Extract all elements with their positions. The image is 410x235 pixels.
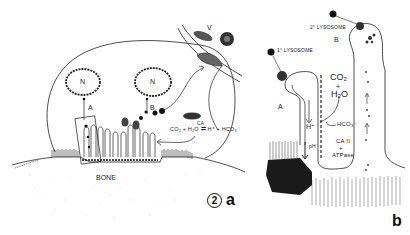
sealing-hatch-b [270,141,297,160]
sealing-zone-left [52,149,78,157]
digested-debris [366,34,376,44]
secondary-lysosome-fusion [356,22,364,30]
transcytosis-vesicles [365,71,370,171]
figure-number: 2 [212,195,218,206]
nucleus-right-label: N [150,78,155,85]
vessel-wall-inner [182,25,242,76]
arrow-to-hco3 [320,96,339,122]
pathway-a-label: A [88,104,93,111]
h2o-label: H₂O [331,90,348,99]
panel-a-drawing [0,0,410,235]
transcytosis-arrow [164,68,203,110]
vessel-label: V [207,24,212,31]
secondary-lysosome-dot [330,11,337,18]
figure-canvas: N N A B V BONE CA CO₂ + H₂O ⇌ H⁺ + HCO₃⁻… [0,0,410,235]
hplus-label: H⁺ [306,123,315,130]
panel-b-letter: b [392,213,402,229]
co2-label: CO₂ [330,73,347,82]
carbonic-equation: CO₂ + H₂O ⇌ H⁺ + HCO₃⁻ [170,127,240,133]
ca2-label: CA II [336,138,350,144]
endothelial-cell [197,53,222,66]
primary-lysosome-label: 1° LYSOSOME [277,48,313,53]
panel-b-pathway-b: B [334,36,339,43]
nucleus-left-label: N [80,78,85,85]
panel-b-pathway-a: A [278,103,283,110]
upward-arrows [365,93,369,134]
secondary-lysosome-label: 2° LYSOSOME [310,25,346,30]
secretory-vesicle [159,108,165,114]
pathway-b-label: B [150,104,155,111]
primary-lysosome-fusion [277,71,287,81]
plus-label-2: + [339,145,343,151]
ph-label: pH [309,144,316,149]
vesicle-1 [122,118,129,127]
mineralized-bone [266,158,312,195]
primary-lysosome-dot [268,49,275,56]
figure-number-badge: 2 [207,193,222,208]
bicarbonate-arrow [209,65,223,130]
panel-a-letter: a [226,192,235,208]
atpase-label: ATPase [332,152,354,158]
bone-matrix-hatch [312,176,400,207]
proton-arrow [158,136,195,142]
ruffled-border [84,125,155,157]
bone-label: BONE [96,174,116,181]
sealing-zone-right [162,149,192,159]
hco3-label: HCO₃⁻ [337,121,357,127]
vesicle-2 [133,121,140,130]
mitochondrion [183,113,201,120]
